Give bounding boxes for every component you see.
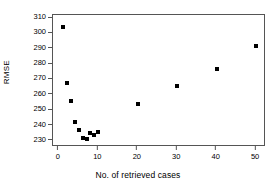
data-point xyxy=(254,44,258,48)
y-axis-tick: 270 xyxy=(33,73,52,83)
y-axis-tick: 300 xyxy=(33,27,52,37)
x-axis-title: No. of retrieved cases xyxy=(0,170,276,180)
data-point xyxy=(136,102,140,106)
y-axis-tick-label: 290 xyxy=(33,43,46,53)
x-axis-tick: 40 xyxy=(212,146,220,161)
data-point xyxy=(85,137,89,141)
x-axis-tick: 10 xyxy=(93,146,101,161)
y-axis-tick-label: 270 xyxy=(33,73,46,83)
x-axis-tick: 20 xyxy=(133,146,141,161)
x-axis-tick-mark xyxy=(136,146,137,150)
data-point xyxy=(77,128,81,132)
data-point xyxy=(61,25,65,29)
y-axis-tick: 240 xyxy=(33,120,52,130)
data-point xyxy=(65,81,69,85)
y-axis-tick: 260 xyxy=(33,89,52,99)
data-point xyxy=(69,99,73,103)
x-axis-tick-label: 30 xyxy=(172,152,180,161)
x-axis-tick-label: 40 xyxy=(212,152,220,161)
x-axis-tick-label: 10 xyxy=(93,152,101,161)
x-axis-tick-group: 01020304050 xyxy=(0,146,276,166)
y-axis-tick-label: 310 xyxy=(33,12,46,22)
y-axis-tick: 280 xyxy=(33,58,52,68)
y-axis-tick-label: 230 xyxy=(33,135,46,145)
y-axis-tick-label: 260 xyxy=(33,89,46,99)
x-axis-tick: 0 xyxy=(56,146,60,161)
scatter-plot-figure: RMSE 230240250260270280290300310 0102030… xyxy=(0,0,276,192)
plot-area xyxy=(52,14,265,146)
x-axis-tick-label: 50 xyxy=(251,152,259,161)
data-point xyxy=(215,67,219,71)
y-axis-tick-label: 240 xyxy=(33,120,46,130)
y-axis-tick: 290 xyxy=(33,43,52,53)
x-axis-tick-mark xyxy=(215,146,216,150)
y-axis-tick: 230 xyxy=(33,135,52,145)
y-axis-tick: 310 xyxy=(33,12,52,22)
x-axis-tick-mark xyxy=(97,146,98,150)
y-axis-tick-label: 250 xyxy=(33,104,46,114)
data-point xyxy=(73,120,77,124)
data-points-layer xyxy=(53,15,264,145)
y-axis-tick: 250 xyxy=(33,104,52,114)
data-point xyxy=(175,84,179,88)
x-axis-tick-label: 0 xyxy=(56,152,60,161)
x-axis-tick-mark xyxy=(57,146,58,150)
x-axis-tick-mark xyxy=(255,146,256,150)
data-point xyxy=(96,130,100,134)
x-axis-tick: 50 xyxy=(251,146,259,161)
x-axis-tick-mark xyxy=(176,146,177,150)
x-axis-tick-label: 20 xyxy=(133,152,141,161)
y-axis-tick-label: 280 xyxy=(33,58,46,68)
x-axis-tick: 30 xyxy=(172,146,180,161)
y-axis-tick-label: 300 xyxy=(33,27,46,37)
